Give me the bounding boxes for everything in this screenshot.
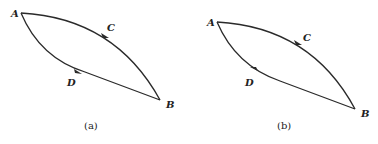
point-c-label: C [107, 22, 115, 33]
panel-b-caption: (b) [277, 120, 291, 131]
panel-b: A C D B (b) [206, 17, 369, 131]
point-c-label: C [303, 32, 311, 43]
path-acb-a [21, 13, 160, 100]
point-d-label: D [244, 77, 254, 88]
diagram-canvas: A C D B (a) A C D B (b) [0, 0, 378, 144]
panel-a-caption: (a) [84, 120, 98, 131]
path-acb-b [217, 22, 355, 109]
point-a-label: A [10, 8, 19, 19]
panel-a: A C D B (a) [10, 8, 174, 131]
point-b-label: B [360, 108, 369, 119]
point-b-label: B [165, 99, 174, 110]
point-a-label: A [206, 17, 215, 28]
path-adb-a [21, 13, 160, 100]
path-bda-b [217, 22, 355, 109]
point-d-label: D [66, 77, 76, 88]
